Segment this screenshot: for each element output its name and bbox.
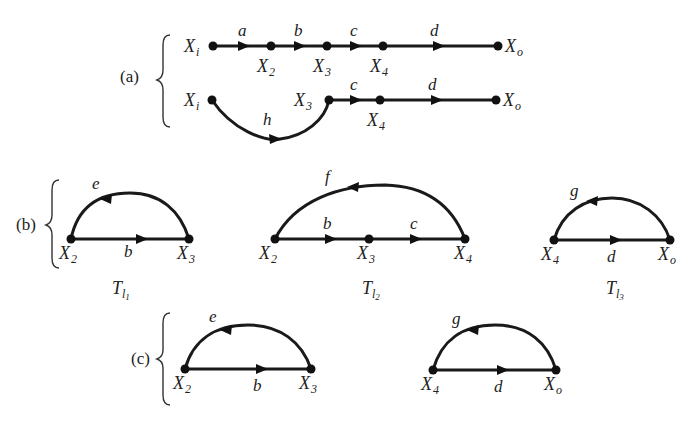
node-label: X4 [420,374,439,397]
edge-label: d [428,75,437,94]
edge-label: g [452,309,461,328]
edge-label: c [410,214,418,233]
arrow-icon [256,364,268,374]
edge-label: c [350,75,358,94]
section-b: (b) X2 X3 b e Tl1 X2 X3 [16,167,676,302]
section-label-c: (c) [131,349,150,368]
brace-b [46,180,59,268]
node-label: X2 [256,56,275,79]
loop-title: Tl1 [112,278,130,302]
edge-label: h [263,110,272,129]
edge-label: d [607,247,616,266]
node-x2 [271,235,280,244]
edge-label: g [570,181,579,200]
section-c: (c) X2 X3 b e X4 Xo d g [131,307,562,405]
node-label: Xo [543,374,562,397]
node-xo [492,96,501,105]
signal-flow-diagram: (a) Xi X2 X3 X4 Xo a b c d [0,0,693,424]
arrow-icon [610,235,622,245]
node-label: X3 [356,243,375,266]
node-xi [209,42,218,51]
edge-label: c [350,21,358,40]
arrow-icon [136,234,148,244]
edge-label: b [294,21,303,40]
arrow-icon [410,234,422,244]
edge-label: f [325,167,332,186]
arrow-icon [325,234,337,244]
node-label: Xo [504,36,523,59]
arrow-icon [431,95,443,105]
node-label: X4 [369,56,388,79]
loop-b1: X2 X3 b e Tl1 [58,174,195,302]
arrow-icon [269,134,282,144]
graph-a1: Xi X2 X3 X4 Xo a b c d [183,21,523,79]
loop-b3: X4 Xo d g Tl3 [540,181,676,302]
edge-label: b [253,376,262,395]
section-a: (a) Xi X2 X3 X4 Xo a b c d [120,21,523,144]
edge-label: e [209,307,217,326]
node-label: X2 [258,243,277,266]
loop-title: Tl2 [362,278,380,302]
node-x2 [267,42,276,51]
node-label: X4 [366,110,385,133]
section-label-a: (a) [120,67,139,86]
node-x3 [325,96,334,105]
node-x4 [376,96,385,105]
arrow-icon [586,196,598,206]
node-label: Xo [657,244,676,267]
arrow-icon [238,41,250,51]
arrow-icon [347,182,359,192]
loop-c2: X4 Xo d g [420,309,562,397]
edge-label: d [494,377,503,396]
loop-c1: X2 X3 b e [172,307,317,396]
brace-c [157,313,170,405]
node-label: X3 [293,90,312,113]
node-label: Xo [502,90,521,113]
node-x4 [379,42,388,51]
arrow-icon [497,365,509,375]
section-label-b: (b) [16,215,36,234]
node-label: X4 [540,244,559,267]
arrow-icon [350,95,362,105]
node-x3 [323,42,332,51]
node-label: X3 [312,56,331,79]
loop-b2: X2 X3 X4 b c f Tl2 [258,167,472,302]
node-label: Xi [183,36,199,59]
node-xi [208,96,217,105]
edge-label: a [238,21,247,40]
node-label: Xi [183,90,199,113]
node-label: X3 [176,243,195,266]
node-label: X3 [298,373,317,396]
arrow-icon [433,41,445,51]
node-label: X2 [58,243,77,266]
edge-label: b [124,242,133,261]
edge-label: d [430,21,439,40]
loop-title: Tl3 [606,278,624,302]
brace-a [157,35,170,127]
node-label: X2 [172,373,191,396]
arrow-icon [294,41,306,51]
edge-label: b [323,214,332,233]
graph-a2: Xi X3 X4 Xo h c d [183,75,521,144]
edge-label: e [92,174,100,193]
node-label: X4 [453,243,472,266]
node-xo [494,42,503,51]
arrow-icon [350,41,362,51]
